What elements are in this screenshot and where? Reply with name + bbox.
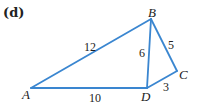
triangle-diagram: (d) A B C D 12 10 6 5 3 <box>0 0 199 108</box>
length-label-bd: 6 <box>139 46 145 60</box>
part-label: (d) <box>3 5 24 20</box>
vertex-label-b: B <box>148 5 156 20</box>
length-label-bc: 5 <box>168 38 174 52</box>
length-label-ab: 12 <box>84 40 96 54</box>
vertex-label-d: D <box>140 89 151 104</box>
edge-dc <box>147 71 177 88</box>
vertex-label-a: A <box>21 87 30 102</box>
length-label-dc: 3 <box>163 80 169 94</box>
edge-bd <box>147 19 151 88</box>
length-label-ad: 10 <box>89 91 101 105</box>
vertex-label-c: C <box>179 67 188 82</box>
